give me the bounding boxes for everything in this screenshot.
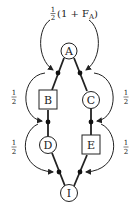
node-e-label: E (87, 139, 95, 152)
edge-d-i (52, 153, 65, 186)
node-a-label: A (64, 45, 74, 58)
dot-c-e (89, 120, 94, 125)
dot-i-right (78, 170, 83, 175)
frac-num: 1 (124, 89, 128, 97)
side-label-left-lower: 1 2 (12, 139, 17, 156)
top-coefficient-label: 1 2 (1 + FA) (51, 6, 99, 22)
frac-den: 2 (124, 148, 128, 156)
frac-den: 2 (124, 98, 128, 106)
side-label-right-upper: 1 2 (124, 89, 129, 106)
frac-num: 1 (12, 139, 16, 147)
top-right-arrow (86, 20, 98, 70)
dot-b-d (46, 120, 51, 125)
top-left-arrow (41, 20, 53, 70)
node-b: B (39, 90, 57, 109)
frac-den: 2 (12, 98, 16, 106)
node-d-label: D (44, 139, 53, 152)
frac-num: 1 (12, 89, 16, 97)
top-label-body: (1 + FA) (57, 8, 98, 21)
frac-den: 2 (12, 148, 16, 156)
side-label-right-lower: 1 2 (124, 139, 129, 156)
dot-a-right (78, 71, 83, 76)
node-i: I (61, 185, 78, 202)
node-c: C (83, 92, 100, 109)
node-a: A (61, 43, 77, 59)
edges (48, 58, 91, 186)
frac-den: 2 (51, 14, 55, 22)
node-c-label: C (87, 94, 95, 107)
node-d: D (40, 137, 57, 154)
dot-i-left (57, 170, 62, 175)
node-i-label: I (67, 187, 71, 200)
dot-a-left (56, 71, 61, 76)
node-b-label: B (44, 94, 52, 107)
side-label-left-upper: 1 2 (12, 89, 17, 106)
frac-num: 1 (51, 6, 55, 14)
path-diagram: A B C D E I 1 2 (1 + FA) 1 2 1 2 1 2 (0, 0, 139, 211)
frac-num: 1 (124, 139, 128, 147)
node-e: E (82, 135, 100, 154)
